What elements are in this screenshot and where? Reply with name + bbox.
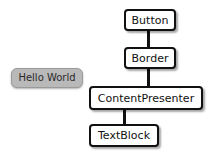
hello-world-button[interactable]: Hello World: [11, 68, 83, 88]
visual-tree-diagram: Hello World Button Border ContentPresent…: [0, 0, 215, 162]
tree-node-textblock[interactable]: TextBlock: [89, 124, 159, 147]
connector-button-to-border: [147, 29, 150, 49]
tree-node-contentpresenter[interactable]: ContentPresenter: [89, 86, 203, 110]
tree-node-border-label: Border: [132, 53, 169, 64]
tree-node-button-label: Button: [132, 15, 169, 26]
hello-world-button-label: Hello World: [18, 73, 75, 83]
connector-border-to-contentpresenter: [147, 67, 150, 88]
tree-node-contentpresenter-label: ContentPresenter: [98, 93, 194, 104]
tree-node-border[interactable]: Border: [124, 47, 176, 69]
tree-node-textblock-label: TextBlock: [98, 130, 150, 141]
tree-node-button[interactable]: Button: [124, 9, 176, 31]
